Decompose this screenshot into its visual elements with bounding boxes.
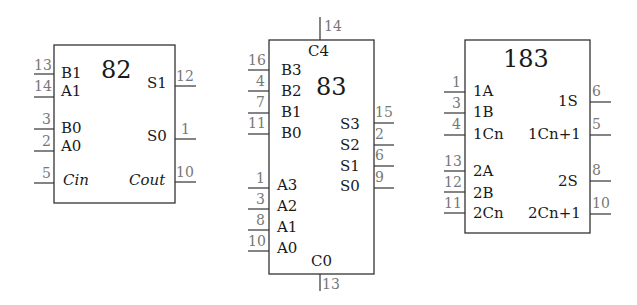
pin-signal: A3 (276, 176, 297, 194)
pin-number: 13 (322, 276, 340, 292)
pin-number: 5 (592, 116, 601, 132)
pin-signal: S1 (147, 74, 167, 92)
pin-number: 11 (444, 195, 462, 211)
pin-number: 1 (452, 74, 461, 90)
pin-number: 10 (592, 195, 610, 211)
pin-number: 3 (452, 95, 461, 111)
pin-signal: A1 (60, 82, 81, 100)
pin-number: 2 (375, 126, 384, 142)
chip-83-title: 83 (316, 73, 347, 101)
pin-number: 15 (375, 104, 393, 120)
pin-signal: B1 (61, 64, 82, 82)
pin-signal: A0 (276, 239, 297, 257)
pin-signal: 2B (473, 184, 494, 202)
pin-number: 1 (256, 170, 265, 186)
pin-signal: 1B (473, 103, 494, 121)
chip-82-title: 82 (101, 56, 132, 84)
pin-number: 12 (176, 68, 194, 84)
pin-number: 8 (592, 162, 601, 178)
pin-signal: 2Cn+1 (528, 204, 581, 222)
pin-number: 8 (256, 212, 265, 228)
pin-signal: C4 (308, 42, 329, 60)
pin-signal: 1Cn (473, 125, 504, 143)
pin-number: 13 (444, 153, 462, 169)
pin-signal: S0 (147, 127, 167, 145)
chip-183: 183 1 1A 3 1B 4 1Cn 13 2A 12 2B 11 2Cn 6… (444, 40, 611, 233)
pin-signal: A0 (60, 137, 81, 155)
pin-signal: 1S (558, 92, 578, 110)
pin-signal: Cin (63, 171, 89, 189)
pin-signal: B2 (281, 82, 302, 100)
pin-signal: S3 (340, 115, 360, 133)
chip-183-title: 183 (503, 45, 549, 73)
pin-number: 14 (324, 18, 342, 34)
pin-signal: 2Cn (473, 204, 504, 222)
pin-signal: 2S (558, 172, 578, 190)
pin-signal: B1 (281, 103, 302, 121)
pin-number: 10 (176, 164, 194, 180)
chip-83: 83 14 C4 13 C0 16 B3 4 B2 7 B1 11 B0 1 A… (248, 17, 394, 292)
pin-number: 6 (592, 83, 601, 99)
pin-number: 7 (256, 94, 265, 110)
pin-number: 6 (375, 147, 384, 163)
adder-ic-diagrams: 82 13 B1 14 A1 3 B0 2 A0 5 Cin 12 S1 1 S… (0, 0, 637, 305)
pin-number: 3 (42, 111, 51, 127)
pin-number: 16 (248, 52, 266, 68)
pin-signal: B3 (281, 61, 302, 79)
pin-number: 14 (34, 78, 52, 94)
pin-signal: S2 (340, 136, 360, 154)
pin-number: 12 (444, 174, 462, 190)
pin-signal: A2 (276, 197, 297, 215)
pin-number: 13 (34, 57, 52, 73)
chip-82: 82 13 B1 14 A1 3 B0 2 A0 5 Cin 12 S1 1 S… (34, 45, 196, 203)
pin-number: 4 (452, 116, 461, 132)
pin-signal: B0 (61, 119, 82, 137)
pin-signal: B0 (281, 124, 302, 142)
pin-signal: 1A (473, 82, 494, 100)
pin-number: 1 (181, 121, 190, 137)
pin-signal: A1 (276, 218, 297, 236)
pin-signal: C0 (311, 252, 332, 270)
pin-signal: 2A (473, 162, 494, 180)
pin-signal: S0 (340, 177, 360, 195)
pin-number: 2 (42, 133, 51, 149)
pin-number: 11 (248, 115, 266, 131)
pin-number: 9 (375, 169, 384, 185)
pin-number: 10 (248, 233, 266, 249)
pin-signal: 1Cn+1 (528, 125, 581, 143)
pin-number: 3 (256, 191, 265, 207)
pin-signal: Cout (129, 171, 166, 189)
pin-number: 4 (256, 73, 265, 89)
pin-number: 5 (42, 165, 51, 181)
pin-signal: S1 (340, 157, 360, 175)
